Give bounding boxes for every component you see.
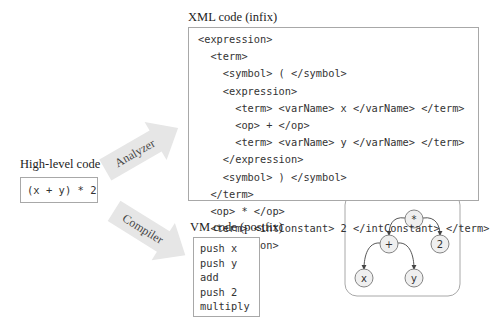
xml-line: </expression> [198,151,478,168]
xml-line: <term> <varName> y </varName> </term> [198,134,478,151]
xml-line: <symbol> ) </symbol> [198,169,478,186]
compiler-arrow: Compiler [102,192,197,274]
vm-line: multiply [200,299,259,314]
node-y: y [405,269,423,287]
xml-line: <expression> [198,31,478,48]
vm-line: add [200,270,259,285]
xml-code-box: <expression> <term> <symbol> ( </symbol>… [188,27,479,201]
xml-line: <op> * </op> [198,203,478,220]
xml-line: </term> [198,186,478,203]
xml-line: <symbol> ( </symbol> [198,65,478,82]
svg-text:y: y [411,273,417,284]
analyzer-arrow: Analyzer [94,109,189,189]
high-level-code-box: (x + y) * 2 [20,177,98,203]
high-level-title: High-level code [20,157,100,172]
xml-line: <op> + </op> [198,117,478,134]
xml-title: XML code (infix) [188,10,277,25]
vm-line: push y [200,256,259,271]
xml-line: <term> <varName> x </varName> </term> [198,100,478,117]
vm-line: push 2 [200,285,259,300]
high-level-code: (x + y) * 2 [27,183,97,198]
vm-code-box: push x push y add push 2 multiply [193,237,260,317]
xml-line: <expression> [198,83,478,100]
svg-text:x: x [361,273,367,284]
node-x: x [355,269,373,287]
vm-line: push x [200,241,259,256]
xml-line: <term> [198,48,478,65]
vm-title: VM code (postfix) [190,220,283,235]
